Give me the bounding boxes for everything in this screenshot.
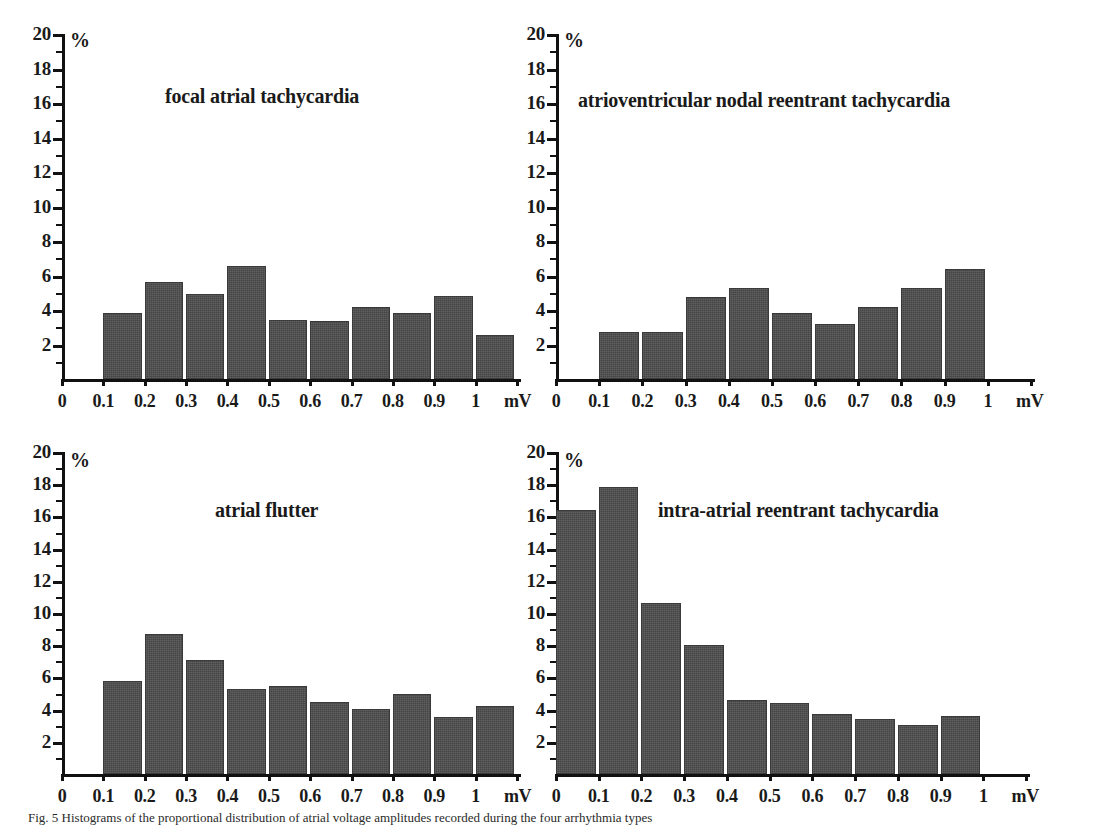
x-axis-tick [900, 379, 903, 386]
x-axis-label: 0.8 [887, 787, 909, 805]
x-axis-label: 0.9 [423, 392, 445, 410]
y-axis-tick [547, 103, 556, 106]
chart-title: intra-atrial reentrant tachycardia [658, 500, 939, 520]
y-axis-tick [56, 694, 62, 696]
x-axis-tick [309, 379, 312, 386]
y-axis-tick [547, 484, 556, 487]
histogram-bar [310, 321, 348, 379]
y-axis-label: 12 [527, 162, 545, 181]
y-axis-tick [53, 484, 62, 487]
x-axis-label: 0.4 [217, 392, 239, 410]
y-axis-tick [547, 613, 556, 616]
y-axis-tick [53, 241, 62, 244]
x-axis-label: 0.3 [175, 787, 197, 805]
x-axis-tick [1025, 774, 1028, 781]
y-axis-tick [547, 310, 556, 313]
histogram-bar [186, 294, 224, 379]
x-axis-tick [897, 774, 900, 781]
y-axis-tick [56, 533, 62, 535]
histogram-bar [434, 296, 472, 379]
x-axis-tick [771, 379, 774, 386]
x-axis-line [62, 774, 521, 777]
y-axis-unit-label: % [70, 450, 90, 470]
y-axis-tick [547, 276, 556, 279]
y-axis-tick [550, 224, 556, 226]
x-axis-label: 0.4 [716, 787, 738, 805]
y-axis-tick [547, 138, 556, 141]
y-axis-tick [53, 207, 62, 210]
histogram-bar [941, 716, 981, 774]
histogram-bar [103, 313, 141, 379]
y-axis-tick [56, 629, 62, 631]
x-axis-label: 0.2 [632, 392, 654, 410]
histogram-bar [898, 725, 938, 774]
x-axis-label: 0.3 [673, 787, 695, 805]
histogram-bar [945, 269, 985, 379]
x-axis-unit-label: mV [1012, 787, 1039, 805]
y-axis-tick [56, 51, 62, 53]
x-axis-label: 0.8 [382, 392, 404, 410]
y-axis-label: 16 [33, 507, 51, 526]
x-axis-tick [728, 379, 731, 386]
y-axis-label: 8 [42, 635, 51, 654]
x-axis-tick [351, 379, 354, 386]
x-axis-label: 1 [983, 392, 992, 410]
x-axis-label: 0.5 [761, 392, 783, 410]
histogram-bar [393, 313, 431, 379]
y-axis-tick [550, 362, 556, 364]
x-axis-tick [769, 774, 772, 781]
y-axis-label: 14 [33, 539, 51, 558]
histogram-bar [227, 266, 265, 379]
y-axis-tick [56, 155, 62, 157]
y-axis-tick [547, 549, 556, 552]
y-axis-tick [53, 613, 62, 616]
y-axis-label: 16 [527, 507, 545, 526]
y-axis-tick [53, 138, 62, 141]
x-axis-label: 0.7 [341, 787, 363, 805]
y-axis-tick [547, 207, 556, 210]
x-axis-line [556, 379, 1035, 382]
x-axis-label: 0.8 [382, 787, 404, 805]
chart-title: focal atrial tachycardia [165, 86, 359, 106]
x-axis-tick [641, 379, 644, 386]
y-axis-label: 10 [33, 603, 51, 622]
y-axis-label: 20 [527, 24, 545, 43]
y-axis-tick [56, 468, 62, 470]
x-axis-label: 0 [552, 392, 561, 410]
x-axis-label: 0.9 [934, 392, 956, 410]
x-axis-label: 0.2 [134, 787, 156, 805]
chart-title: atrioventricular nodal reentrant tachyca… [578, 90, 950, 110]
x-axis-label: 0.7 [847, 392, 869, 410]
histogram-bar [684, 645, 724, 774]
x-axis-tick [268, 774, 271, 781]
y-axis-label: 10 [527, 603, 545, 622]
x-axis-label: 1 [471, 787, 480, 805]
x-axis-tick [555, 379, 558, 386]
x-axis-tick [475, 379, 478, 386]
x-axis-unit-label: mV [504, 392, 531, 410]
y-axis-tick [547, 452, 556, 455]
x-axis-tick [516, 379, 519, 386]
x-axis-tick [185, 774, 188, 781]
y-axis-label: 4 [536, 700, 545, 719]
x-axis-label: 0.1 [93, 787, 115, 805]
y-axis-tick [547, 581, 556, 584]
histogram-bar [556, 510, 596, 774]
x-axis-tick [102, 774, 105, 781]
y-axis-tick [547, 742, 556, 745]
x-axis-tick [392, 379, 395, 386]
x-axis-label: 0.1 [588, 392, 610, 410]
x-axis-tick [226, 379, 229, 386]
x-axis-tick [987, 379, 990, 386]
x-axis-label: 0.7 [844, 787, 866, 805]
y-axis-label: 8 [536, 635, 545, 654]
y-axis-tick [550, 500, 556, 502]
x-axis-label: 0 [58, 787, 67, 805]
x-axis-tick [555, 774, 558, 781]
x-axis-tick [598, 379, 601, 386]
y-axis-tick [53, 549, 62, 552]
x-axis-label: 0.9 [930, 787, 952, 805]
plot-area: 246810121416182000.10.20.30.40.50.60.70.… [556, 34, 1031, 379]
y-axis-label: 12 [33, 571, 51, 590]
